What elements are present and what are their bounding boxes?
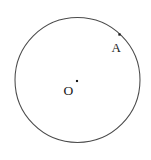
point-a-dot (118, 33, 120, 35)
center-point-label: O (64, 83, 74, 98)
geometry-figure-canvas: O A (0, 0, 151, 160)
point-a-label: A (112, 40, 122, 55)
center-point-dot (76, 80, 78, 82)
circle-diagram-svg: O A (0, 0, 151, 160)
